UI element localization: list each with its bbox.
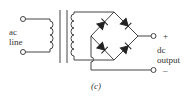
minus-label: – (163, 65, 168, 75)
bridge-outline (91, 12, 138, 60)
plus-label: + (163, 31, 168, 41)
input-wire-top (26, 19, 51, 21)
primary-coil (50, 21, 53, 49)
figure-caption: (c) (91, 81, 101, 91)
input-wire-bottom (26, 49, 51, 52)
ac-label: ac (9, 27, 17, 37)
dc-label: dc (157, 45, 166, 55)
ac-terminal-bottom (21, 50, 26, 55)
output-label: output (157, 55, 180, 65)
dc-terminal-plus (151, 34, 156, 39)
line-label: line (9, 37, 23, 47)
dc-terminal-minus (151, 68, 156, 73)
secondary-coil (71, 12, 90, 60)
ac-terminal-top (21, 17, 26, 22)
